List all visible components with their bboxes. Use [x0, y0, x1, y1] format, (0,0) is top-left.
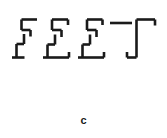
word-stimulus-feet: [0, 0, 167, 100]
letters-group: [12, 20, 155, 58]
letter-e-2: [78, 20, 104, 58]
letter-f-1: [12, 20, 37, 58]
fragmented-letters-svg: [0, 0, 167, 100]
figure-panel-c: c: [0, 0, 167, 138]
panel-caption: c: [0, 114, 167, 127]
letter-t-1: [110, 20, 155, 58]
letter-e-1: [43, 20, 69, 58]
